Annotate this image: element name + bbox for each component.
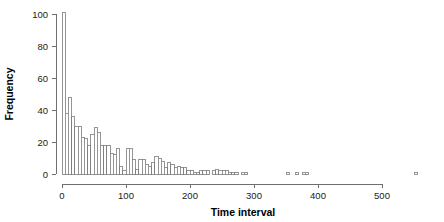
histogram-bar [75, 126, 78, 174]
histogram-bar [180, 168, 183, 174]
y-tick-label: 40 [37, 105, 48, 116]
histogram-figure: 020406080100 0100200300400500 Time inter… [0, 0, 444, 222]
histogram-bar [155, 156, 158, 174]
histogram-bar [139, 160, 142, 174]
histogram-bar [65, 113, 68, 174]
x-axis-ticks: 0100200300400500 [59, 184, 390, 201]
y-tick-label: 60 [37, 73, 48, 84]
histogram-bar [136, 169, 139, 174]
y-tick-label: 80 [37, 41, 48, 52]
histogram-bar [187, 171, 190, 174]
histogram-bar [107, 145, 110, 174]
histogram-bar [286, 172, 289, 174]
y-axis-title: Frequency [3, 67, 15, 120]
histogram-bar [216, 169, 219, 174]
histogram-bar [171, 164, 174, 174]
y-tick-label: 20 [37, 137, 48, 148]
histogram-bar [132, 160, 135, 174]
histogram-bar [142, 160, 145, 174]
histogram-bar [296, 172, 299, 174]
x-tick-label: 500 [374, 190, 390, 201]
x-tick-label: 100 [118, 190, 134, 201]
histogram-bar [184, 168, 187, 174]
histogram-bar [177, 166, 180, 174]
histogram-bar [235, 172, 238, 174]
histogram-bar [97, 132, 100, 174]
histogram-bar [228, 172, 231, 174]
histogram-bar [78, 126, 81, 174]
histogram-bar [244, 172, 247, 174]
histogram-bar [168, 163, 171, 174]
histogram-bar [116, 148, 119, 174]
histogram-bar [212, 171, 215, 174]
y-tick-label: 100 [32, 9, 48, 20]
histogram-bar [193, 172, 196, 174]
histogram-bar [200, 171, 203, 174]
x-tick-label: 200 [182, 190, 198, 201]
x-tick-label: 400 [310, 190, 326, 201]
histogram-bar [219, 171, 222, 174]
histogram-bar [84, 139, 87, 174]
histogram-bar [129, 148, 132, 174]
histogram-bar [126, 148, 129, 174]
histogram-bar [110, 153, 113, 174]
histogram-bar [302, 172, 305, 174]
histogram-bar [88, 145, 91, 174]
x-tick-label: 300 [246, 190, 262, 201]
histogram-bar [225, 171, 228, 174]
histogram-bar [196, 172, 199, 174]
x-axis-title: Time interval [211, 206, 276, 218]
histogram-bar [158, 158, 161, 174]
histogram-chart: 020406080100 0100200300400500 Time inter… [0, 0, 444, 222]
y-tick-label: 0 [43, 169, 48, 180]
histogram-bar [164, 168, 167, 174]
histogram-bar [148, 166, 151, 174]
histogram-bar [222, 171, 225, 174]
histogram-bar [94, 128, 97, 174]
histogram-bar [91, 134, 94, 174]
histogram-bar [100, 145, 103, 174]
histogram-bar [190, 171, 193, 174]
histogram-bar [161, 161, 164, 174]
x-tick-label: 0 [59, 190, 64, 201]
histogram-bar [145, 164, 148, 174]
histogram-bar [68, 97, 71, 174]
y-axis-ticks: 020406080100 [32, 9, 56, 180]
histogram-bar [104, 145, 107, 174]
histogram-bar [62, 12, 65, 174]
histogram-bar [120, 166, 123, 174]
histogram-bar [174, 168, 177, 174]
histogram-bar [72, 116, 75, 174]
histogram-bar [203, 171, 206, 174]
histogram-bar [152, 163, 155, 174]
histogram-bar [81, 137, 84, 174]
histogram-bar [123, 171, 126, 174]
histogram-bar [113, 155, 116, 174]
bar-series [62, 12, 417, 174]
histogram-bar [206, 171, 209, 174]
histogram-bar [414, 172, 417, 174]
histogram-bar [241, 172, 244, 174]
histogram-bar [232, 172, 235, 174]
histogram-bar [305, 172, 308, 174]
